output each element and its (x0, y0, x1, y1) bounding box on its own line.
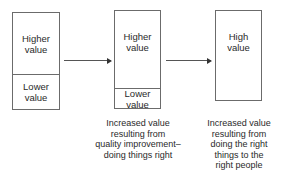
caption-line: quality improvement– (92, 139, 184, 150)
label-line: value (124, 42, 152, 53)
label-line: value (23, 92, 49, 103)
caption-line: resulting from (92, 129, 184, 140)
label-line: Higher (22, 33, 50, 44)
label-line: Lower (125, 88, 151, 99)
label-line: High (227, 31, 250, 42)
caption-quality-improvement: Increased value resulting from quality i… (92, 118, 184, 160)
caption-doing-right-things: Increased value resulting from doing the… (196, 118, 282, 171)
box-after-doing-right-things: High value (215, 10, 262, 101)
box-initial: Higher value Lower value (12, 12, 60, 110)
label-line: Lower (23, 81, 49, 92)
segment-higher-value: Higher value (115, 11, 160, 88)
segment-lower-value: Lower value (13, 74, 59, 109)
caption-line: Increased value (92, 118, 184, 129)
segment-high-value: High value (216, 11, 261, 100)
arrow-right-icon (64, 60, 111, 61)
caption-line: right people (196, 160, 282, 171)
segment-lower-value: Lower value (115, 88, 160, 108)
box-after-quality-improvement: Higher value Lower value (114, 10, 161, 109)
caption-line: doing things right (92, 150, 184, 161)
label-line: value (22, 44, 50, 55)
label-line: value (227, 42, 250, 53)
caption-line: things to the (196, 150, 282, 161)
caption-line: Increased value (196, 118, 282, 129)
label-line: Higher (124, 31, 152, 42)
arrow-right-icon (166, 60, 211, 61)
caption-line: resulting from (196, 129, 282, 140)
segment-higher-value: Higher value (13, 13, 59, 74)
label-line: value (125, 99, 151, 110)
caption-line: doing the right (196, 139, 282, 150)
